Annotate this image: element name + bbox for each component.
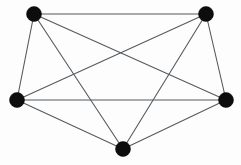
edge-layer	[17, 14, 226, 149]
vertex-layer	[10, 7, 234, 157]
graph-vertex-v2	[199, 7, 214, 22]
graph-edge	[17, 14, 206, 100]
graph-vertex-v1	[27, 7, 42, 22]
graph-vertex-v3	[10, 93, 25, 108]
graph-figure	[0, 0, 241, 165]
graph-canvas	[0, 0, 241, 165]
graph-vertex-v5	[116, 142, 131, 157]
graph-edge	[206, 14, 226, 100]
graph-edge	[17, 14, 34, 100]
graph-vertex-v4	[219, 93, 234, 108]
